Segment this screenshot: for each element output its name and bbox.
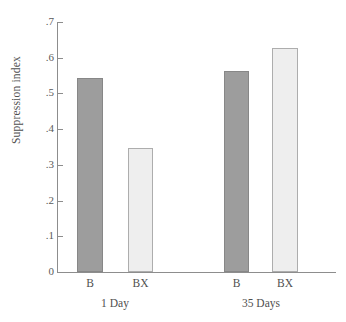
y-axis-tick [57,236,63,237]
y-axis-tick [57,129,63,130]
x-axis-group-label: 1 Day [55,296,175,310]
y-axis-tick [57,22,63,23]
bar-chart: Suppression index 0.1.2.3.4.5.6.7 BBXBBX… [0,0,346,322]
bar [128,148,153,272]
bar [272,48,298,272]
y-axis-tick-label: .3 [14,159,54,170]
y-axis-title: Suppression index [10,0,30,225]
y-axis-tick [57,272,63,273]
y-axis-tick [57,58,63,59]
y-axis-tick-label: 0 [14,266,54,277]
y-axis-tick-label: .2 [14,195,54,206]
y-axis-tick [57,93,63,94]
y-axis-tick [57,201,63,202]
y-axis-tick-label: .4 [14,123,54,134]
x-axis-line [57,272,336,273]
y-axis-tick-label: .1 [14,230,54,241]
y-axis-tick-label: .6 [14,52,54,63]
y-axis-tick [57,165,63,166]
x-axis-group-label: 35 Days [201,296,321,310]
bar [77,78,103,272]
bar [224,71,249,272]
y-axis-tick-label: .7 [14,16,54,27]
x-axis-label: BX [111,276,171,290]
y-axis-tick-label: .5 [14,87,54,98]
x-axis-label: BX [255,276,315,290]
